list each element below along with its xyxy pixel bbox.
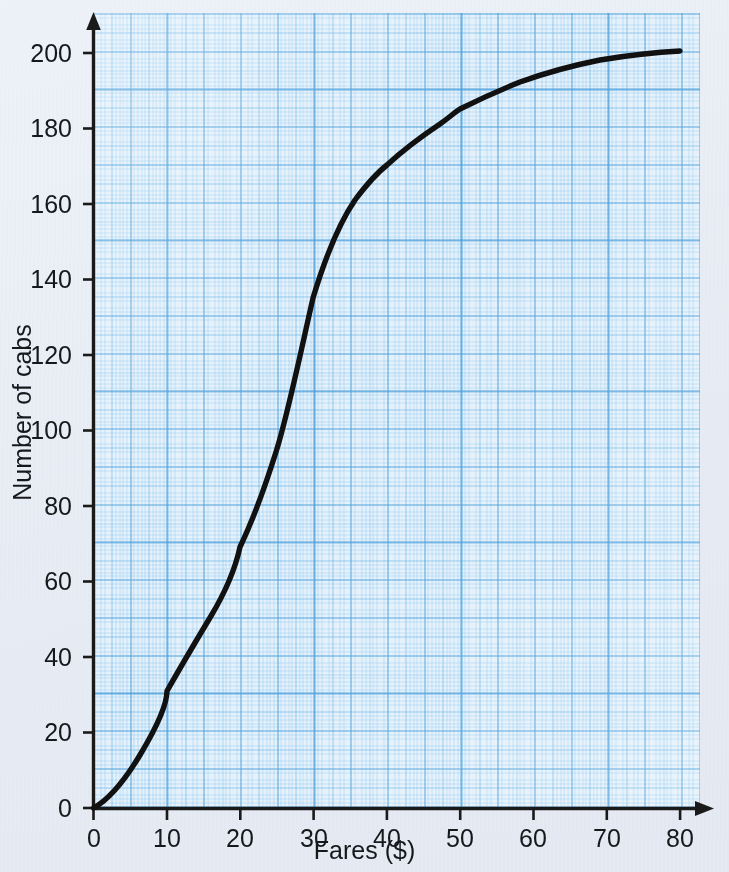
y-tick-label-160: 160 bbox=[8, 192, 72, 217]
y-axis-title: Number of cabs bbox=[8, 313, 37, 513]
plot-svg bbox=[0, 0, 729, 872]
x-axis bbox=[94, 801, 715, 816]
y-tick-label-0: 0 bbox=[8, 796, 72, 821]
y-axis bbox=[86, 12, 101, 808]
y-tick-label-180: 180 bbox=[8, 116, 72, 141]
y-tick-label-60: 60 bbox=[8, 569, 72, 594]
x-axis-title: Fares ($) bbox=[0, 836, 729, 865]
y-tick-label-40: 40 bbox=[8, 645, 72, 670]
chart-page: 200 180 160 140 120 100 80 60 40 20 0 0 … bbox=[0, 0, 729, 872]
cumulative-frequency-curve bbox=[94, 51, 681, 808]
y-tick-label-200: 200 bbox=[8, 41, 72, 66]
y-tick-label-20: 20 bbox=[8, 720, 72, 745]
y-tick-label-140: 140 bbox=[8, 267, 72, 292]
